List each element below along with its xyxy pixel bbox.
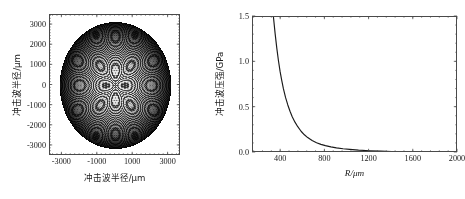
right-y-axis-title: 冲击波压强/GPa <box>213 52 225 117</box>
right-x-axis-title: R/μm <box>345 168 364 178</box>
y-tick-label: 0.5 <box>222 102 249 111</box>
x-tick-label: 400 <box>274 154 286 163</box>
x-tick-label: 2000 <box>449 154 465 163</box>
x-tick-label: 800 <box>318 154 330 163</box>
x-tick-label: 1600 <box>405 154 421 163</box>
y-tick-label: 1.5 <box>222 12 249 21</box>
y-tick-label: 0.0 <box>222 148 249 157</box>
y-tick-label: 1.0 <box>222 57 249 66</box>
x-tick-label: 1200 <box>360 154 376 163</box>
